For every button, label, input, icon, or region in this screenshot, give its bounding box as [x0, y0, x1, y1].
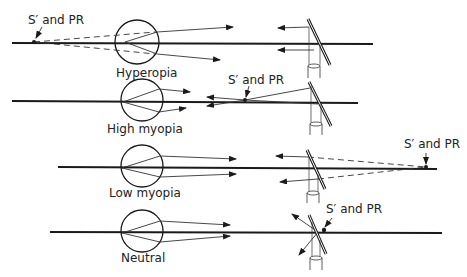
row-low-myopia: S′ and PR Low myopia	[58, 137, 460, 203]
optical-axis	[50, 232, 442, 233]
row-caption: High myopia	[107, 122, 183, 136]
row-caption: Hyperopia	[116, 66, 177, 80]
row-caption: Neutral	[121, 251, 165, 265]
row-neutral: S′ and PR Neutral	[50, 202, 442, 270]
point-label: S′ and PR	[404, 137, 460, 151]
optical-axis	[58, 167, 437, 169]
optical-axis	[12, 101, 358, 103]
row-hyperopia: S′ and PR Hyperopia	[12, 13, 373, 80]
far-point-dot	[424, 165, 428, 169]
eye-circle	[115, 20, 159, 64]
retinoscopy-diagram: S′ and PR Hyperopia S′ and PR High myopi…	[0, 0, 467, 277]
point-label: S′ and PR	[228, 73, 284, 87]
point-label: S′ and PR	[326, 202, 382, 216]
point-label: S′ and PR	[28, 13, 84, 27]
row-high-myopia: S′ and PR High myopia	[12, 73, 358, 136]
row-caption: Low myopia	[109, 186, 181, 200]
far-point-dot	[243, 98, 247, 102]
far-point-dot	[322, 228, 326, 232]
far-point-dot	[32, 40, 36, 44]
